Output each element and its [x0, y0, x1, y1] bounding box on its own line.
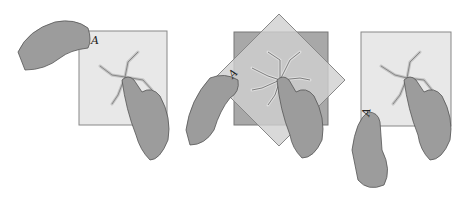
panel-3: A	[352, 32, 451, 188]
corner-label: A	[90, 34, 99, 47]
panel-2: A	[186, 14, 345, 158]
hand-left	[186, 75, 238, 145]
illustration: A A A	[0, 0, 471, 202]
panel-1: A	[18, 21, 169, 160]
